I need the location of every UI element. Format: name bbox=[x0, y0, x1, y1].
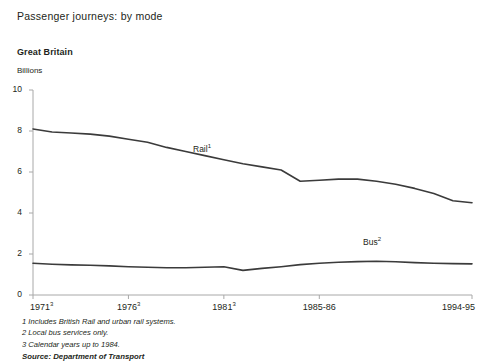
rail-label-superscript: 1 bbox=[208, 143, 211, 149]
x-axis-ticks bbox=[33, 295, 472, 299]
axes bbox=[33, 90, 472, 295]
bus-label-text: Bus bbox=[363, 237, 378, 247]
y-tick-label: 0 bbox=[4, 289, 22, 299]
y-axis-ticks bbox=[29, 90, 33, 295]
footnote-3: 3 Calendar years up to 1984. bbox=[22, 339, 462, 350]
rail-series-label: Rail1 bbox=[193, 144, 211, 154]
y-tick-label: 6 bbox=[4, 166, 22, 176]
y-tick-label: 8 bbox=[4, 125, 22, 135]
footnote-2: 2 Local bus services only. bbox=[22, 327, 462, 338]
x-tick-label: 19813 bbox=[212, 302, 235, 312]
rail-label-text: Rail bbox=[193, 144, 208, 154]
bus-series-label: Bus2 bbox=[363, 237, 381, 247]
bus-series-line bbox=[33, 261, 472, 270]
x-tick-label: 19713 bbox=[30, 302, 53, 312]
source-line: Source: Department of Transport bbox=[22, 351, 462, 363]
footnotes-block: 1 Includes British Rail and urban rail s… bbox=[22, 316, 462, 363]
line-chart-svg bbox=[0, 0, 495, 363]
y-tick-label: 4 bbox=[4, 207, 22, 217]
x-tick-label: 1985-86 bbox=[303, 302, 336, 312]
x-tick-label: 19763 bbox=[117, 302, 140, 312]
y-tick-label: 2 bbox=[4, 248, 22, 258]
rail-series-line bbox=[33, 129, 472, 203]
y-tick-label: 10 bbox=[4, 84, 22, 94]
chart-page: Passenger journeys: by mode Great Britai… bbox=[0, 0, 495, 363]
x-tick-label: 1994-95 bbox=[442, 302, 475, 312]
bus-label-superscript: 2 bbox=[378, 236, 381, 242]
data-series-group bbox=[33, 129, 472, 270]
plot-area: 0246810 1971319763198131985-861994-95 Ra… bbox=[0, 0, 495, 363]
footnote-1: 1 Includes British Rail and urban rail s… bbox=[22, 316, 462, 327]
